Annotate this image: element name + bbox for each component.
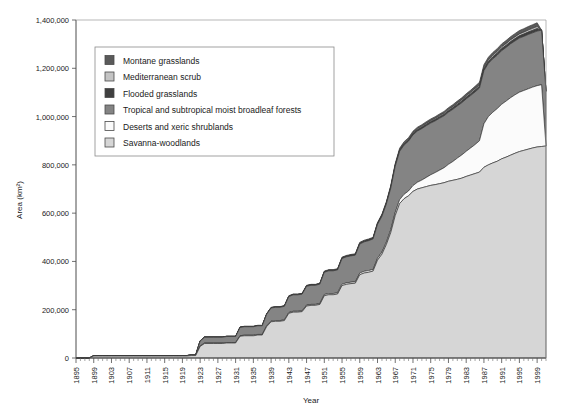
x-tick-label: 1967	[391, 367, 400, 384]
x-tick-label: 1979	[444, 367, 453, 384]
chart-canvas: 1895189919031907191119151919192319271931…	[0, 0, 563, 416]
legend-item[interactable]: Tropical and subtropical moist broadleaf…	[105, 105, 301, 115]
x-tick-label: 1999	[533, 367, 542, 384]
y-axis-title: Area (km²)	[15, 181, 24, 219]
x-tick-label: 1931	[232, 367, 241, 384]
legend-swatch	[105, 138, 114, 147]
y-tick-label: 800,000	[42, 161, 69, 170]
x-tick-label: 1915	[161, 367, 170, 384]
y-tick-label: 200,000	[42, 306, 69, 315]
legend-label: Tropical and subtropical moist broadleaf…	[123, 105, 301, 115]
x-tick-label: 1907	[125, 367, 134, 384]
x-tick-label: 1971	[409, 367, 418, 384]
legend-swatch	[105, 122, 114, 131]
x-tick-label: 1943	[285, 367, 294, 384]
legend-label: Montane grasslands	[123, 56, 200, 66]
x-tick-label: 1987	[480, 367, 489, 384]
y-tick-label: 0	[65, 354, 69, 363]
x-tick-label: 1955	[338, 367, 347, 384]
x-tick-label: 1923	[196, 367, 205, 384]
legend-swatch	[105, 105, 114, 114]
x-tick-label: 1959	[356, 367, 365, 384]
y-tick-label: 600,000	[42, 209, 69, 218]
x-tick-label: 1899	[90, 367, 99, 384]
y-tick-label: 1,400,000	[36, 16, 69, 25]
x-tick-label: 1895	[72, 367, 81, 384]
x-tick-label: 1903	[107, 367, 116, 384]
legend-swatch	[105, 72, 114, 81]
x-tick-label: 1963	[374, 367, 383, 384]
legend-swatch	[105, 56, 114, 65]
legend-label: Mediterranean scrub	[123, 72, 201, 82]
x-tick-label: 1939	[267, 367, 276, 384]
chart-legend[interactable]: Montane grasslandsMediterranean scrubFlo…	[95, 47, 334, 156]
y-tick-label: 1,200,000	[36, 64, 69, 73]
x-tick-label: 1951	[320, 367, 329, 384]
legend-label: Savanna-woodlands	[123, 138, 200, 148]
legend-swatch	[105, 89, 114, 98]
legend-label: Flooded grasslands	[123, 89, 197, 99]
x-tick-label: 1947	[303, 367, 312, 384]
x-tick-label: 1935	[249, 367, 258, 384]
legend-item[interactable]: Deserts and xeric shrublands	[105, 122, 233, 132]
x-tick-label: 1927	[214, 367, 223, 384]
legend-label: Deserts and xeric shrublands	[123, 122, 233, 132]
x-axis-title: Year	[303, 396, 320, 405]
y-tick-label: 400,000	[42, 257, 69, 266]
x-tick-label: 1991	[498, 367, 507, 384]
stacked-area-chart: 1895189919031907191119151919192319271931…	[0, 0, 563, 416]
y-tick-label: 1,000,000	[36, 113, 69, 122]
x-tick-label: 1995	[515, 367, 524, 384]
x-tick-label: 1911	[143, 367, 152, 383]
x-tick-label: 1975	[427, 367, 436, 384]
x-tick-label: 1919	[178, 367, 187, 384]
x-tick-label: 1983	[462, 367, 471, 384]
